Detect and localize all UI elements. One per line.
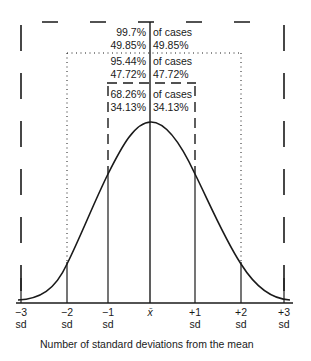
- tick-minus1: −1sd: [102, 306, 114, 330]
- bell-curve: [18, 122, 290, 300]
- tick-minus2: −2sd: [61, 306, 73, 330]
- band-3sd-left: 49.85%: [100, 39, 146, 51]
- tick-mean: x̄: [147, 306, 152, 318]
- two-sd-bracket: [67, 53, 241, 262]
- band-2sd-total: 95.44%: [100, 55, 146, 67]
- band-1sd-total: 68.26%: [100, 88, 146, 100]
- band-1sd-left: 34.13%: [100, 101, 146, 113]
- band-3sd-suffix: of cases: [153, 26, 192, 38]
- tick-plus2: +2sd: [235, 306, 247, 330]
- band-1sd-right: 34.13%: [153, 101, 189, 113]
- tick-minus3: −3sd: [15, 306, 27, 330]
- tick-plus1: +1sd: [189, 306, 201, 330]
- tick-plus3: +3sd: [278, 306, 290, 330]
- x-axis-label: Number of standard deviations from the m…: [40, 338, 254, 350]
- band-3sd-total: 99.7%: [100, 26, 146, 38]
- band-2sd-left: 47.72%: [100, 68, 146, 80]
- band-3sd-right: 49.85%: [153, 39, 189, 51]
- band-1sd-suffix: of cases: [153, 88, 192, 100]
- band-2sd-suffix: of cases: [153, 55, 192, 67]
- band-2sd-right: 47.72%: [153, 68, 189, 80]
